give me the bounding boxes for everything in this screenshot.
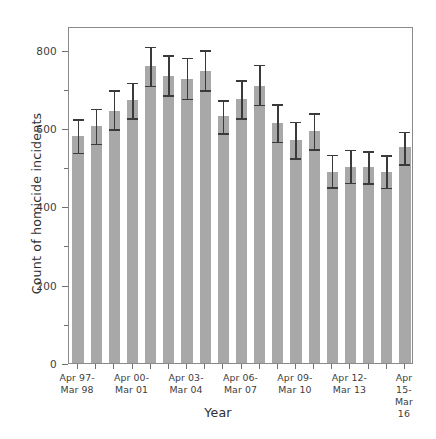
bar <box>163 76 174 363</box>
y-tick-minor <box>64 90 68 91</box>
bar <box>290 140 301 363</box>
bar <box>363 167 374 363</box>
y-axis-title: Count of homicide incidents <box>29 84 44 324</box>
error-bar <box>218 100 229 134</box>
x-tick <box>277 364 278 369</box>
x-tick <box>77 364 78 369</box>
plot-area <box>68 27 413 364</box>
x-tick <box>349 364 350 369</box>
bar <box>200 71 211 363</box>
y-tick-minor <box>64 246 68 247</box>
x-tick <box>113 364 114 369</box>
y-tick-minor <box>64 168 68 169</box>
bar <box>345 167 356 363</box>
x-tick <box>222 364 223 369</box>
error-bar <box>309 113 320 151</box>
x-tick <box>95 364 96 369</box>
error-bar <box>73 119 84 154</box>
x-tick <box>386 364 387 369</box>
x-tick <box>204 364 205 369</box>
error-bar <box>381 155 392 189</box>
error-bar <box>272 104 283 143</box>
bar <box>272 123 283 363</box>
x-axis-title: Year <box>0 405 436 420</box>
bar <box>181 79 192 363</box>
x-tick <box>168 364 169 369</box>
error-bar <box>182 58 193 100</box>
error-bar <box>254 65 265 107</box>
x-tick-label: Apr 03- Mar 04 <box>168 372 203 396</box>
bar <box>72 136 83 363</box>
error-bar <box>145 47 156 87</box>
x-tick <box>404 364 405 369</box>
x-tick <box>186 364 187 369</box>
error-bar <box>200 50 211 92</box>
bar <box>109 111 120 363</box>
y-tick <box>62 286 68 287</box>
x-tick <box>150 364 151 369</box>
bar <box>236 99 247 363</box>
error-bar <box>236 80 247 120</box>
error-bar <box>109 90 120 131</box>
y-tick <box>62 129 68 130</box>
error-bar <box>290 122 301 160</box>
y-tick-minor <box>64 325 68 326</box>
y-tick <box>62 51 68 52</box>
bar <box>254 86 265 363</box>
chart-figure: 0200400600800 Apr 97- Mar 98Apr 00- Mar … <box>0 0 436 439</box>
error-bar <box>91 109 102 145</box>
error-bar <box>163 55 174 97</box>
bar <box>327 172 338 363</box>
bar <box>309 131 320 363</box>
x-tick-label: Apr 97- Mar 98 <box>59 372 94 396</box>
x-tick <box>241 364 242 369</box>
x-tick <box>259 364 260 369</box>
error-bar <box>327 155 338 189</box>
x-tick <box>132 364 133 369</box>
x-tick <box>295 364 296 369</box>
error-bar <box>363 151 374 185</box>
y-tick <box>62 364 68 365</box>
error-bar <box>345 150 356 184</box>
bar <box>127 100 138 363</box>
y-tick-label: 0 <box>50 358 57 370</box>
x-tick <box>368 364 369 369</box>
y-tick <box>62 207 68 208</box>
y-tick-label: 800 <box>36 45 57 57</box>
bar <box>399 147 410 363</box>
error-bar <box>127 83 138 120</box>
bar <box>145 66 156 363</box>
bar <box>91 126 102 363</box>
x-tick-label: Apr 00- Mar 01 <box>114 372 149 396</box>
bar <box>381 172 392 363</box>
bar <box>218 116 229 363</box>
x-tick-label: Apr 09- Mar 10 <box>277 372 312 396</box>
x-tick <box>331 364 332 369</box>
error-bar <box>399 132 410 166</box>
x-tick-label: Apr 06- Mar 07 <box>223 372 258 396</box>
x-tick <box>313 364 314 369</box>
x-tick-label: Apr 12- Mar 13 <box>332 372 367 396</box>
